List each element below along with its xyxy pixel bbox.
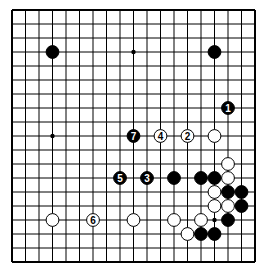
move-number: 6 <box>90 215 96 226</box>
star-point <box>131 50 135 54</box>
star-point <box>50 134 54 138</box>
black-stone <box>168 172 181 185</box>
black-stone <box>222 214 235 227</box>
white-stone <box>208 130 221 143</box>
white-stone: 4 <box>154 130 167 143</box>
move-number: 4 <box>158 131 164 142</box>
white-stone <box>208 186 221 199</box>
move-number: 3 <box>144 173 150 184</box>
white-stone <box>222 200 235 213</box>
black-stone <box>46 46 59 59</box>
white-stone <box>195 214 208 227</box>
move-number: 1 <box>225 103 231 114</box>
black-stone: 5 <box>114 172 127 185</box>
move-number: 7 <box>131 131 137 142</box>
black-stone: 7 <box>127 130 140 143</box>
black-stone <box>208 172 221 185</box>
black-stone <box>235 200 248 213</box>
white-stone <box>208 200 221 213</box>
white-stone <box>127 214 140 227</box>
white-stone <box>222 172 235 185</box>
black-stone <box>208 228 221 241</box>
white-stone <box>181 228 194 241</box>
white-stone: 2 <box>181 130 194 143</box>
move-number: 2 <box>185 131 191 142</box>
black-stone <box>195 172 208 185</box>
white-stone: 6 <box>87 214 100 227</box>
black-stone <box>235 186 248 199</box>
black-stone <box>222 186 235 199</box>
go-board[interactable]: 1742536 <box>0 0 262 273</box>
move-number: 5 <box>117 173 123 184</box>
black-stone <box>195 228 208 241</box>
white-stone <box>168 214 181 227</box>
black-stone: 3 <box>141 172 154 185</box>
star-point <box>212 218 216 222</box>
white-stone <box>222 158 235 171</box>
black-stone: 1 <box>222 102 235 115</box>
black-stone <box>208 46 221 59</box>
white-stone <box>46 214 59 227</box>
